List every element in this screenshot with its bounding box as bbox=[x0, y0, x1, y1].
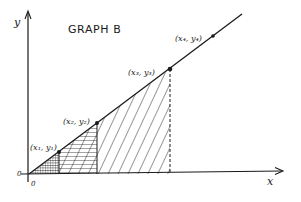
point-3-label: (x₃, y₃) bbox=[128, 68, 155, 77]
y-axis bbox=[25, 11, 31, 182]
point-1-marker bbox=[57, 150, 61, 154]
point-2-label: (x₂, y₂) bbox=[63, 117, 90, 126]
graph-title: GRAPH B bbox=[68, 23, 121, 36]
origin-x-label: 0 bbox=[31, 180, 36, 188]
point-4-label: (x₄, y₄) bbox=[175, 34, 202, 43]
x-axis-label: x bbox=[267, 175, 274, 188]
origin-y-label: 0 bbox=[17, 170, 22, 178]
y-axis-label: y bbox=[13, 16, 21, 29]
point-1-label: (x₁, y₁) bbox=[30, 143, 57, 152]
point-3-marker bbox=[168, 67, 173, 72]
point-2-marker bbox=[95, 121, 99, 125]
point-4-marker bbox=[211, 34, 215, 38]
region-x2-to-x3 bbox=[97, 69, 170, 174]
graph-b-diagram: GRAPH B y x 0 0 (x₁, y₁) (x₂, y₂) (x₃, y… bbox=[0, 0, 301, 202]
region-x1-to-x2 bbox=[59, 123, 97, 174]
